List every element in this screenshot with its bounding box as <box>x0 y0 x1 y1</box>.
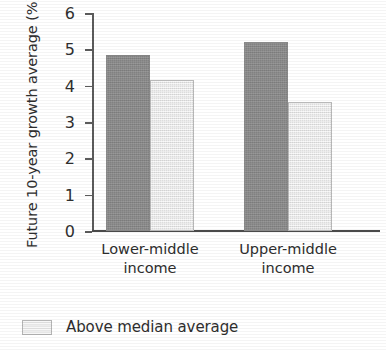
legend-label-above-median: Above median average <box>66 318 238 336</box>
bar-below-median-group-2 <box>244 42 288 231</box>
y-tick-2: 2 <box>85 158 92 160</box>
plot-area: 0123456 <box>92 13 380 231</box>
legend-swatch-above-median <box>22 320 52 335</box>
y-tick-0: 0 <box>85 231 92 233</box>
y-tick-6: 6 <box>85 13 92 15</box>
y-tick-label-0: 0 <box>65 224 75 240</box>
bar-above-median-group-1 <box>150 80 194 231</box>
y-tick-4: 4 <box>85 86 92 88</box>
y-tick-label-3: 3 <box>65 115 75 131</box>
chart-legend: Above median average <box>22 318 238 336</box>
y-axis-title: Future 10-year growth average (%) <box>24 8 40 248</box>
y-tick-1: 1 <box>85 195 92 197</box>
bar-above-median-group-2 <box>288 102 332 231</box>
bar-below-median-group-1 <box>106 55 150 231</box>
y-axis-line <box>92 13 94 231</box>
y-tick-label-6: 6 <box>65 6 75 22</box>
y-tick-label-4: 4 <box>65 79 75 95</box>
x-category-label-1: Lower-middle income <box>70 240 230 277</box>
bar-chart-figure: Future 10-year growth average (%) 012345… <box>0 0 386 350</box>
x-category-label-2: Upper-middle income <box>208 240 368 277</box>
y-tick-label-2: 2 <box>65 151 75 167</box>
y-tick-label-1: 1 <box>65 188 75 204</box>
y-tick-3: 3 <box>85 122 92 124</box>
y-tick-5: 5 <box>85 49 92 51</box>
y-tick-label-5: 5 <box>65 42 75 58</box>
